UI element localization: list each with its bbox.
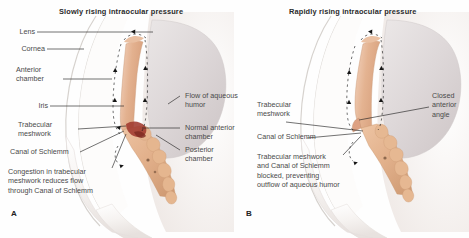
label-canal-of-schlemm: Canal of Schlemm — [10, 147, 84, 156]
anterior-chamber-region — [314, 16, 363, 222]
pigment-spot — [146, 158, 149, 161]
label-trabecular-meshwork: Trabecular meshwork — [18, 120, 80, 139]
label-congestion-note: Congestion in trabecular meshwork reduce… — [8, 167, 120, 195]
label-b-canal-of-schlemm: Canal of Schlemm — [257, 132, 333, 141]
iris-body — [120, 41, 143, 134]
panel-b: Rapidly rising intraocular pressure Trab… — [235, 0, 469, 238]
pigment-spot — [154, 171, 157, 174]
label-b-closed-anterior-angle: Closed anterior angle — [432, 91, 469, 119]
panel-a-anatomy — [0, 0, 234, 238]
label-lens: Lens — [0, 27, 35, 36]
leader-congestion-note — [112, 134, 126, 168]
label-b-blocked-note: Trabecular meshwork and Canal of Schlemm… — [257, 152, 367, 190]
label-iris: Iris — [0, 101, 48, 110]
outflow-hook-head — [119, 165, 123, 169]
pigment-spot — [383, 156, 386, 159]
label-posterior-chamber: Posterior chamber — [185, 145, 235, 164]
label-cornea: Cornea — [0, 44, 45, 53]
panel-a-title: Slowly rising intraocular pressure — [59, 7, 183, 16]
label-b-trabecular-meshwork: Trabecular meshwork — [257, 100, 319, 119]
figure-canvas: Slowly rising intraocular pressure Lens … — [0, 0, 469, 238]
panel-b-letter: B — [246, 209, 252, 218]
panel-a: Slowly rising intraocular pressure Lens … — [0, 0, 234, 238]
panel-a-letter: A — [11, 209, 17, 218]
label-anterior-chamber: Anterior chamber — [16, 65, 76, 84]
panel-b-title: Rapidly rising intraocular pressure — [289, 7, 417, 16]
